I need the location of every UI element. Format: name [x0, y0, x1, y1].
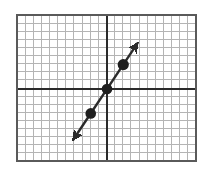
figure-root: [0, 0, 215, 173]
plotted-point: [118, 59, 129, 70]
plotted-point: [85, 108, 96, 119]
plotted-point: [102, 84, 113, 95]
coordinate-graph: [0, 0, 215, 173]
